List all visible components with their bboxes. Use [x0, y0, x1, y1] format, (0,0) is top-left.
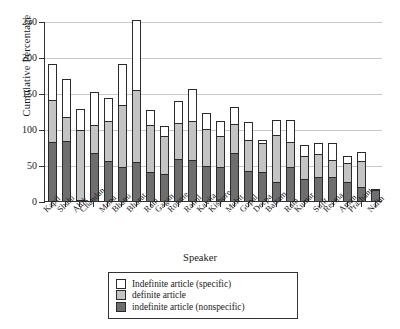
bar-segment-def: [343, 163, 352, 182]
x-axis-tick-labels: KapilShaluAlokChandanMonaBhanuBharatRani…: [44, 205, 382, 251]
legend-item[interactable]: Indefinite article (specific): [116, 279, 290, 289]
x-axis-label-slot: Shalu: [58, 205, 72, 251]
stacked-bar[interactable]: [188, 89, 197, 201]
bar-segment-spec: [188, 89, 197, 121]
x-axis-label-slot: Kumar: [297, 205, 311, 251]
y-axis-tick-label: 250: [0, 21, 37, 22]
stacked-bar[interactable]: [314, 143, 323, 201]
x-axis-label-slot: Mona: [100, 205, 114, 251]
stacked-bar[interactable]: [62, 79, 71, 201]
bar-segment-spec: [90, 92, 99, 125]
cumulative-percentage-bar-chart: Cumulative Percentage 050100150200250 Ka…: [0, 0, 400, 329]
stacked-bar[interactable]: [230, 107, 239, 201]
bar-segment-spec: [160, 126, 169, 135]
stacked-bar[interactable]: [48, 64, 57, 201]
bar-segment-spec: [174, 101, 183, 123]
bar-slot: [312, 22, 326, 201]
bar-segment-spec: [314, 143, 323, 154]
bar-segment-def: [90, 125, 99, 152]
bar-segment-def: [48, 100, 57, 142]
bar-slot: [143, 22, 157, 201]
bar-slot: [157, 22, 171, 201]
bar-slot: [340, 22, 354, 201]
bar-slot: [354, 22, 368, 201]
stacked-bar[interactable]: [118, 64, 127, 201]
bar-slot: [171, 22, 185, 201]
bar-segment-spec: [300, 145, 309, 157]
stacked-bar[interactable]: [202, 113, 211, 201]
x-axis-label-slot: Kapil: [44, 205, 58, 251]
stacked-bar[interactable]: [286, 120, 295, 201]
bar-segment-def: [62, 117, 71, 141]
x-axis-label-slot: Balram: [269, 205, 283, 251]
bar-segment-spec: [118, 64, 127, 104]
x-axis-label-slot: Sujit: [311, 205, 325, 251]
y-axis-tick-label: 200: [0, 57, 37, 58]
bar-segment-spec: [328, 143, 337, 160]
legend-item[interactable]: indefinite article (nonspecific): [116, 302, 290, 312]
bar-segment-def: [244, 140, 253, 172]
bar-slot: [115, 22, 129, 201]
bar-segment-def: [357, 161, 366, 187]
bar-slot: [228, 22, 242, 201]
stacked-bar[interactable]: [104, 98, 113, 201]
stacked-bar[interactable]: [174, 101, 183, 201]
x-axis-label-slot: Bharat: [128, 205, 142, 251]
bar-segment-def: [174, 123, 183, 158]
bar-segment-def: [188, 121, 197, 160]
x-axis-label-slot: Bhanu: [114, 205, 128, 251]
bar-segment-spec: [272, 120, 281, 134]
bar-series-group: [45, 22, 382, 201]
bar-segment-spec: [244, 122, 253, 140]
bar-segment-spec: [230, 107, 239, 124]
bar-segment-def: [202, 129, 211, 166]
y-axis-tick-label: 100: [0, 129, 37, 130]
bar-slot: [284, 22, 298, 201]
legend-swatch-spec: [116, 279, 126, 289]
x-axis-label-slot: Ram: [283, 205, 297, 251]
legend-item[interactable]: definite article: [116, 290, 290, 300]
bar-segment-spec: [76, 109, 85, 130]
x-axis-label-slot: Chandan: [86, 205, 100, 251]
bar-segment-spec: [48, 64, 57, 100]
bar-segment-spec: [132, 20, 141, 90]
bar-slot: [101, 22, 115, 201]
stacked-bar[interactable]: [76, 109, 85, 201]
bar-segment-spec: [104, 98, 113, 121]
bar-slot: [298, 22, 312, 201]
x-axis-label-slot: Mohit: [227, 205, 241, 251]
stacked-bar[interactable]: [160, 126, 169, 201]
bar-segment-def: [258, 143, 267, 172]
bar-segment-def: [160, 136, 169, 175]
bar-segment-spec: [343, 156, 352, 163]
x-axis-label-slot: Gagan: [157, 205, 171, 251]
x-axis-label-slot: Gopal: [241, 205, 255, 251]
stacked-bar[interactable]: [90, 92, 99, 201]
bar-segment-def: [286, 142, 295, 167]
y-axis-tick-label: 150: [0, 93, 37, 94]
legend-label: Indefinite article (specific): [132, 279, 231, 289]
x-axis-label-slot: Reema: [326, 205, 340, 251]
x-axis-label-slot: Prashant: [354, 205, 368, 251]
bar-segment-def: [230, 124, 239, 153]
bar-segment-spec: [146, 110, 155, 124]
bar-slot: [214, 22, 228, 201]
stacked-bar[interactable]: [132, 20, 141, 201]
bar-slot: [200, 22, 214, 201]
stacked-bar[interactable]: [244, 122, 253, 201]
stacked-bar[interactable]: [146, 110, 155, 201]
bar-slot: [242, 22, 256, 201]
legend-label: definite article: [132, 290, 186, 300]
bar-segment-spec: [202, 113, 211, 129]
x-axis-label-slot: Rani: [143, 205, 157, 251]
bar-segment-def: [328, 160, 337, 177]
bar-segment-def: [300, 156, 309, 179]
bar-slot: [73, 22, 87, 201]
chart-legend: Indefinite article (specific)definite ar…: [108, 272, 298, 319]
plot-area: 050100150200250: [44, 22, 382, 202]
bar-slot: [326, 22, 340, 201]
bar-segment-def: [216, 136, 225, 167]
bar-segment-spec: [357, 152, 366, 161]
bar-slot: [185, 22, 199, 201]
bar-segment-def: [104, 121, 113, 161]
